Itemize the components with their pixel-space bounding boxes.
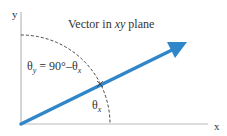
- x-axis-label: x: [214, 120, 220, 132]
- theta-x-label: θx: [92, 98, 101, 114]
- diagram-title: Vector in xy plane: [68, 17, 154, 32]
- y-axis-label: y: [12, 8, 18, 20]
- theta-y-label: θy = 90°–θx: [27, 59, 81, 75]
